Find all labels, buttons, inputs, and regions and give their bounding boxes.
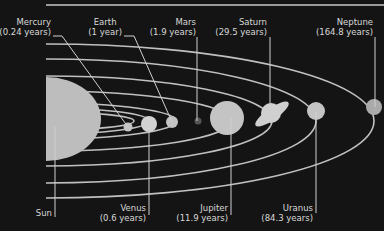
planet-name: Neptune: [316, 17, 373, 27]
planet-name: Earth: [88, 17, 122, 27]
planet-name: Mars: [150, 17, 196, 27]
planet-name: Jupiter: [176, 203, 228, 213]
planet-name: Saturn: [215, 17, 267, 27]
label-sun: Sun: [36, 208, 52, 218]
label-jupiter: Jupiter (11.9 years): [176, 203, 228, 223]
orbital-period: (0.24 years): [0, 27, 51, 37]
label-mercury: Mercury (0.24 years): [0, 17, 51, 37]
orbital-period: (0.6 years): [100, 213, 146, 223]
planet-name: Mercury: [0, 17, 51, 27]
orbital-period: (11.9 years): [176, 213, 228, 223]
neptune: [366, 99, 382, 115]
orbital-period: (164.8 years): [316, 27, 373, 37]
label-mars: Mars (1.9 years): [150, 17, 196, 37]
label-venus: Venus (0.6 years): [100, 203, 146, 223]
planet-name: Sun: [36, 208, 52, 218]
orbital-period: (29.5 years): [215, 27, 267, 37]
orbital-period: (84.3 years): [261, 213, 313, 223]
label-earth: Earth (1 year): [88, 17, 122, 37]
jupiter: [210, 101, 244, 135]
orbital-period: (1.9 years): [150, 27, 196, 37]
label-saturn: Saturn (29.5 years): [215, 17, 267, 37]
saturn: [261, 103, 281, 123]
planet-name: Uranus: [261, 203, 313, 213]
mars: [195, 118, 202, 125]
planet-name: Venus: [100, 203, 146, 213]
label-uranus: Uranus (84.3 years): [261, 203, 313, 223]
label-neptune: Neptune (164.8 years): [316, 17, 373, 37]
orbital-period: (1 year): [88, 27, 122, 37]
